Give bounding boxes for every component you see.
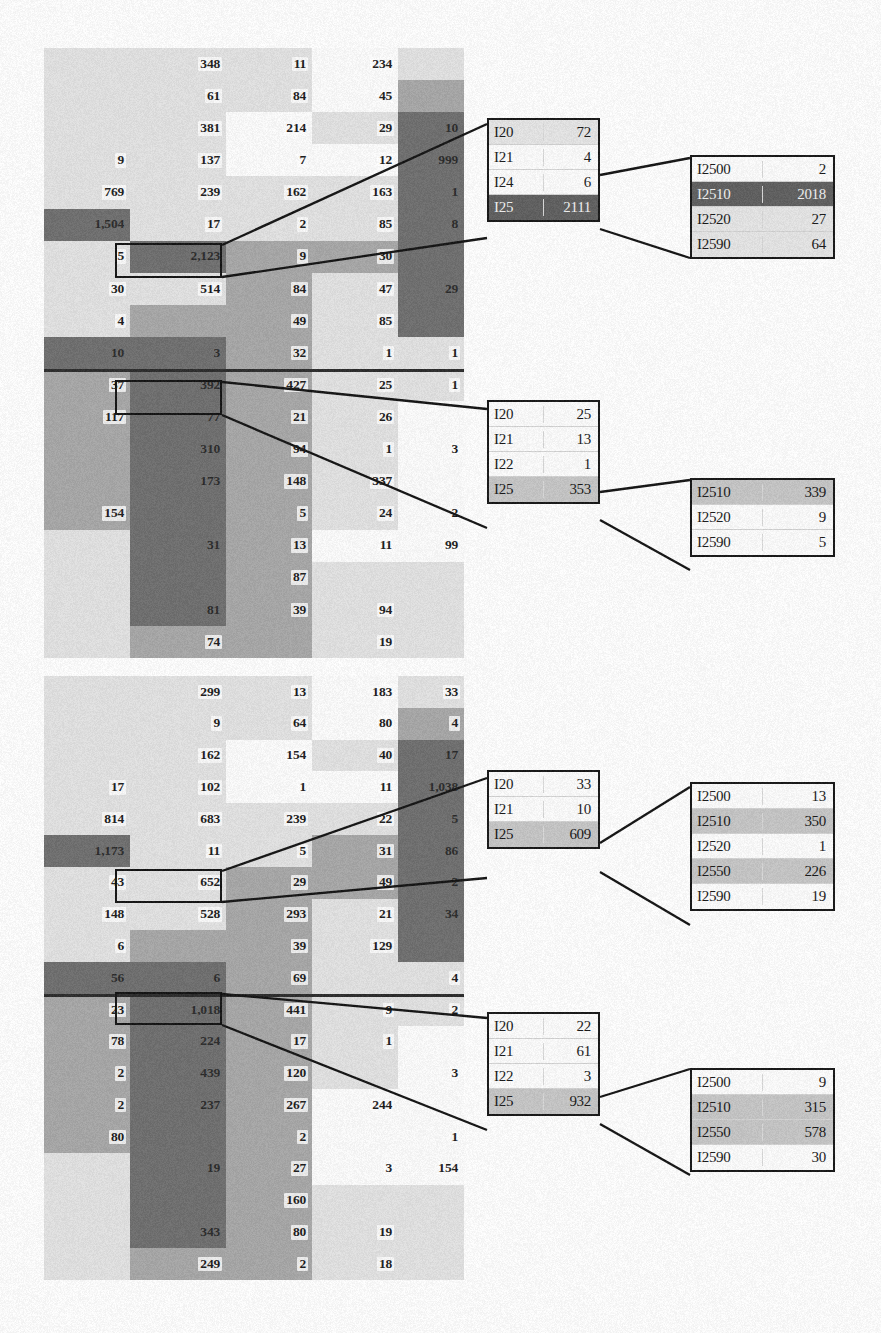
scan-noise-overlay [0,0,881,1333]
